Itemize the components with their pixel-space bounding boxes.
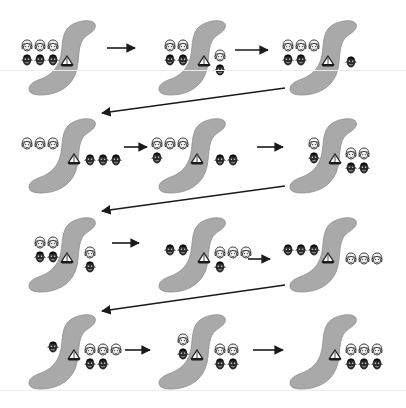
cannibal-icon [177, 347, 189, 360]
right-bank-group [214, 153, 239, 166]
cannibal-icon [345, 55, 357, 68]
missionaries-row [84, 246, 96, 259]
cannibal-icon [47, 53, 59, 66]
left-bank-group [282, 39, 320, 66]
missionary-icon [177, 39, 189, 52]
scan-line [0, 390, 406, 391]
missionary-icon [177, 137, 189, 150]
cannibals-row [164, 243, 189, 256]
missionary-icon [358, 343, 370, 356]
cannibal-icon [295, 53, 307, 66]
boat-icon [321, 252, 335, 264]
cannibal-icon [214, 153, 226, 166]
missionary-icon [308, 39, 320, 52]
missionaries-row [214, 343, 239, 356]
cannibal-icon [47, 250, 59, 263]
left-bank-group [34, 236, 59, 263]
missionary-icon [47, 236, 59, 249]
missionary-icon [214, 343, 226, 356]
cannibals-row [34, 250, 59, 263]
left-bank-group [164, 39, 189, 66]
missionary-icon [214, 246, 226, 259]
cannibal-icon [34, 250, 46, 263]
missionary-icon [34, 39, 46, 52]
boat-icon [190, 153, 204, 165]
cannibals-row [177, 347, 189, 360]
right-bank-group [345, 343, 383, 370]
boat-icon [67, 153, 81, 165]
right-bank-group [345, 55, 357, 68]
cannibal-icon [345, 357, 357, 370]
missionary-icon [151, 137, 163, 150]
cannibal-icon [358, 161, 370, 174]
cannibal-icon [47, 340, 59, 353]
cannibals-row [214, 260, 252, 273]
cannibals-row [84, 153, 122, 166]
cannibals-row [282, 243, 320, 256]
state-panel-10 [5, 313, 135, 408]
missionaries-row [177, 333, 189, 346]
boat-icon [60, 252, 74, 264]
cannibals-row [47, 340, 59, 353]
cannibals-row [84, 260, 96, 273]
boat-icon [197, 252, 211, 264]
cannibal-icon [227, 357, 239, 370]
right-bank-group [84, 246, 96, 273]
missionary-icon [34, 236, 46, 249]
missionaries-row [84, 343, 122, 356]
left-bank-group [21, 137, 59, 150]
cannibals-row [214, 153, 239, 166]
cannibal-icon [21, 53, 33, 66]
boat-icon [60, 55, 74, 67]
missionary-icon [345, 343, 357, 356]
missionary-icon [227, 246, 239, 259]
left-bank-group [151, 137, 189, 164]
boat-icon [328, 153, 342, 165]
cannibals-row [21, 53, 59, 66]
missionary-icon [34, 137, 46, 150]
cannibal-icon [371, 357, 383, 370]
missionary-icon [164, 39, 176, 52]
missionaries-row [282, 39, 320, 52]
state-panel-4 [5, 117, 135, 217]
left-bank-group [47, 340, 59, 353]
cannibals-row [345, 55, 357, 68]
cannibal-icon [151, 151, 163, 164]
boat-icon [328, 349, 342, 361]
missionaries-row [345, 252, 383, 265]
missionary-icon [295, 39, 307, 52]
missionary-icon [345, 252, 357, 265]
missionary-icon [308, 137, 320, 150]
cannibal-icon [227, 153, 239, 166]
state-panel-12 [266, 313, 396, 408]
missionaries-row [345, 147, 370, 160]
missionaries-row [21, 39, 59, 52]
missionary-icon [240, 246, 252, 259]
cannibal-icon [97, 357, 109, 370]
missionary-icon [164, 137, 176, 150]
missionary-icon [177, 333, 189, 346]
missionary-icon [84, 343, 96, 356]
state-panel-1 [5, 19, 135, 119]
missionary-icon [21, 39, 33, 52]
missionaries-row [34, 236, 59, 249]
boat-icon [197, 55, 211, 67]
missionaries-row [214, 49, 226, 62]
cannibal-icon [308, 243, 320, 256]
cannibal-icon [84, 357, 96, 370]
right-bank-group [84, 343, 122, 370]
river-crossing-diagram [0, 0, 406, 408]
right-bank-group [214, 343, 239, 370]
missionary-icon [358, 147, 370, 160]
right-bank-group [84, 153, 122, 166]
cannibal-icon [282, 243, 294, 256]
missionary-icon [110, 343, 122, 356]
cannibal-icon [214, 260, 226, 273]
missionaries-row [214, 246, 252, 259]
missionaries-row [164, 39, 189, 52]
right-bank-group [345, 147, 370, 174]
state-panel-6 [266, 117, 396, 217]
cannibals-row [164, 53, 189, 66]
cannibal-icon [164, 243, 176, 256]
boat-icon [321, 55, 335, 67]
